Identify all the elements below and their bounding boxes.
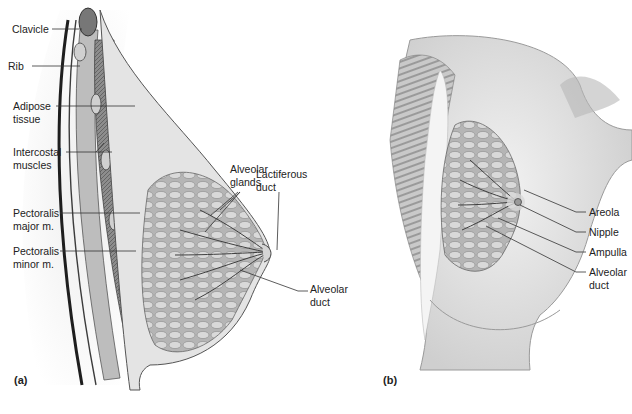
label-clavicle: Clavicle <box>12 23 49 36</box>
label-pectoralis-major: Pectoralis major m. <box>13 207 59 233</box>
anatomy-figure: Clavicle Rib Adipose tissue Intercostal … <box>0 0 632 414</box>
panel-label-b: (b) <box>383 374 397 386</box>
label-areola: Areola <box>589 206 619 219</box>
label-alveolar-duct-a: Alveolar duct <box>310 283 348 309</box>
label-rib: Rib <box>8 60 24 73</box>
label-pectoralis-minor: Pectoralis minor m. <box>13 245 59 271</box>
label-intercostal-muscles: Intercostal muscles <box>13 146 61 172</box>
illustration <box>0 0 632 414</box>
label-ampulla: Ampulla <box>589 246 627 259</box>
label-adipose-tissue: Adipose tissue <box>13 100 51 126</box>
panel-b-drawing <box>390 36 632 370</box>
label-nipple: Nipple <box>589 226 619 239</box>
label-lactiferous-duct: Lactiferous duct <box>256 168 307 194</box>
panel-label-a: (a) <box>14 374 27 386</box>
label-alveolar-duct-b: Alveolar duct <box>589 266 627 292</box>
